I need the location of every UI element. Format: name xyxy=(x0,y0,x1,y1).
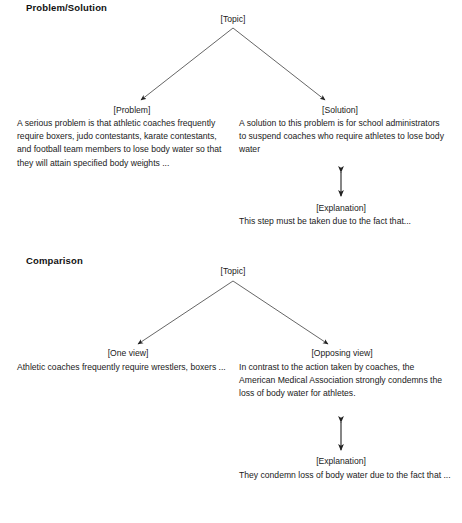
section-heading-problem-solution: Problem/Solution xyxy=(26,2,107,13)
node-label-opposing-view: [Opposing view] xyxy=(282,348,402,358)
arrow-topic2-to-oneview xyxy=(138,281,233,344)
diagram-page: Problem/Solution [Topic] [Problem] A ser… xyxy=(0,0,462,523)
node-text-one-view: Athletic coaches frequently require wres… xyxy=(17,361,232,374)
node-text-explanation-problem-solution: This step must be taken due to the fact … xyxy=(239,215,449,228)
node-label-topic-comparison: [Topic] xyxy=(183,266,283,276)
node-label-explanation-comparison: [Explanation] xyxy=(281,456,401,466)
node-label-topic-problem-solution: [Topic] xyxy=(183,14,283,24)
node-label-solution: [Solution] xyxy=(280,105,400,115)
node-text-explanation-comparison: They condemn loss of body water due to t… xyxy=(239,469,454,482)
node-label-explanation-problem-solution: [Explanation] xyxy=(281,203,401,213)
node-text-solution: A solution to this problem is for school… xyxy=(239,117,449,157)
node-text-problem: A serious problem is that athletic coach… xyxy=(17,117,232,170)
node-label-problem: [Problem] xyxy=(72,105,192,115)
section-heading-comparison: Comparison xyxy=(26,255,83,266)
node-text-opposing-view: In contrast to the action taken by coach… xyxy=(239,361,451,401)
node-label-one-view: [One view] xyxy=(68,348,188,358)
arrow-topic2-to-opposingview xyxy=(233,281,328,344)
arrow-topic1-to-problem xyxy=(141,28,233,100)
arrow-topic1-to-solution xyxy=(233,28,325,100)
